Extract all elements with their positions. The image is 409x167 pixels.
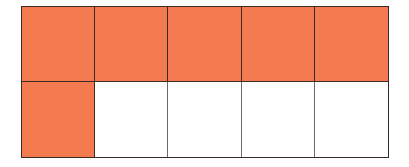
filled-cell (315, 7, 388, 82)
empty-cell (95, 82, 168, 157)
filled-cell (242, 7, 315, 82)
empty-cell (315, 82, 388, 157)
filled-cell (168, 7, 241, 82)
empty-cell (242, 82, 315, 157)
filled-cell (22, 82, 95, 157)
fraction-grid (21, 6, 389, 158)
filled-cell (95, 7, 168, 82)
filled-cell (22, 7, 95, 82)
empty-cell (168, 82, 241, 157)
